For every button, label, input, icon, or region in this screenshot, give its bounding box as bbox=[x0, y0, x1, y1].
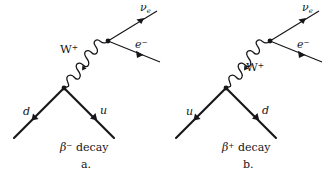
neutrino-symbol: ν bbox=[302, 1, 309, 14]
lepton-line-electron bbox=[270, 41, 322, 62]
arrowhead-electron bbox=[136, 51, 144, 58]
beta-charge: − bbox=[66, 141, 72, 150]
label-w-boson-right: W+ bbox=[246, 62, 264, 74]
vertex-dot-quark bbox=[224, 86, 229, 91]
label-quark-in-left: d bbox=[23, 106, 30, 117]
panel-letter-a: a. bbox=[81, 159, 91, 170]
neutrino-symbol: ν bbox=[140, 1, 147, 14]
caption-beta-plus: β+ decay bbox=[222, 142, 270, 153]
diagram-beta-minus bbox=[14, 11, 160, 138]
arrowhead-electron bbox=[298, 51, 306, 58]
lepton-line-neutrino bbox=[108, 11, 157, 41]
label-quark-out-right: d bbox=[262, 105, 269, 116]
quark-line-u-in bbox=[176, 88, 226, 138]
label-quark-out-left: u bbox=[100, 105, 107, 116]
neutrino-subscript: e bbox=[147, 7, 151, 15]
vertex-dot-quark bbox=[62, 86, 67, 91]
caption-text: decay bbox=[76, 141, 108, 154]
label-electron-right: e− bbox=[297, 39, 310, 50]
label-quark-in-right: u bbox=[186, 106, 193, 117]
w-boson-charge: + bbox=[258, 61, 264, 70]
caption-beta-minus: β− decay bbox=[60, 142, 108, 153]
beta-charge: + bbox=[228, 141, 234, 150]
electron-charge: − bbox=[304, 38, 310, 47]
neutrino-subscript: e bbox=[309, 7, 313, 15]
feynman-diagram-figure: νe e− W+ d u β− decay a. νe e− W+ u d β+… bbox=[0, 0, 333, 179]
caption-text: decay bbox=[238, 141, 270, 154]
diagram-beta-plus bbox=[176, 11, 322, 138]
w-boson-charge: + bbox=[72, 43, 78, 52]
diagram-canvas bbox=[0, 0, 333, 179]
w-boson-symbol: W bbox=[60, 42, 72, 56]
label-electron-left: e− bbox=[135, 39, 148, 50]
label-w-boson-left: W+ bbox=[60, 44, 78, 56]
panel-letter-b: b. bbox=[243, 159, 254, 170]
lepton-line-neutrino bbox=[270, 11, 319, 41]
electron-charge: − bbox=[142, 38, 148, 47]
quark-line-d-in bbox=[14, 88, 64, 138]
lepton-line-electron bbox=[108, 41, 160, 62]
w-boson-symbol: W bbox=[246, 60, 258, 74]
label-neutrino-left: νe bbox=[140, 2, 151, 14]
label-neutrino-right: νe bbox=[302, 2, 313, 14]
